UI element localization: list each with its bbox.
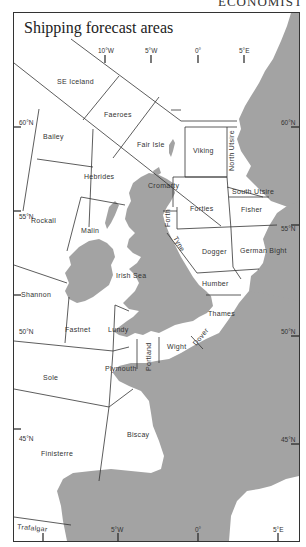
lat-label-left-60n: 60°N [19, 119, 34, 126]
lat-label-left-50n: 50°N [19, 328, 34, 335]
area-label-portland[interactable]: Portland [145, 343, 152, 371]
land-great-britain [113, 173, 213, 337]
lon-label-10w: 10°W [98, 47, 115, 54]
area-label-finisterre[interactable]: Finisterre [41, 450, 73, 457]
area-label-trafalgar[interactable]: Trafalgar [17, 523, 48, 534]
lon-label-0: 0° [195, 47, 202, 54]
area-label-thames[interactable]: Thames [208, 310, 235, 317]
area-label-south-utsire[interactable]: South Utsire [232, 188, 274, 195]
area-label-humber[interactable]: Humber [202, 280, 229, 287]
area-label-lundy[interactable]: Lundy [108, 326, 129, 334]
lat-label-right-60n: 60°N [281, 119, 296, 126]
area-label-north-utsire[interactable]: North Utsire [228, 130, 235, 171]
area-label-se-iceland[interactable]: SE Iceland [57, 78, 94, 85]
shipping-forecast-map: Shipping forecast areas [13, 12, 300, 542]
area-label-bailey[interactable]: Bailey [43, 133, 64, 141]
lat-label-right-45n: 45°N [281, 436, 296, 443]
area-label-dogger[interactable]: Dogger [202, 248, 227, 256]
land-continent [57, 291, 299, 541]
area-label-irish-sea[interactable]: Irish Sea [116, 272, 146, 279]
map-canvas: 10°W 5°W 0° 5°E 60°N 55°N 50°N 45°N 60°N… [14, 13, 299, 541]
land-ireland [65, 239, 115, 303]
area-label-forties[interactable]: Forties [190, 205, 214, 212]
area-label-fisher[interactable]: Fisher [241, 206, 263, 213]
area-label-forth[interactable]: Forth [164, 209, 171, 227]
lon-label-5e: 5°E [239, 47, 250, 54]
page-header-cut-text: ECONOMIST [218, 0, 303, 10]
land-masses [57, 13, 299, 541]
area-label-shannon[interactable]: Shannon [21, 291, 51, 298]
area-label-german-bight[interactable]: German Bight [240, 247, 287, 255]
area-label-faeroes[interactable]: Faeroes [104, 111, 132, 118]
lat-label-right-55n: 55°N [281, 225, 296, 232]
area-label-fastnet[interactable]: Fastnet [65, 326, 90, 333]
lat-label-left-45n: 45°N [19, 435, 34, 442]
land-outer-hebrides [105, 201, 119, 229]
area-label-fair-isle[interactable]: Fair Isle [137, 141, 165, 148]
area-label-cromarty[interactable]: Cromarty [148, 182, 179, 190]
area-label-rockall[interactable]: Rockall [31, 217, 56, 224]
area-label-viking[interactable]: Viking [193, 147, 214, 155]
lon-label-bottom-0: 0° [195, 526, 202, 533]
area-label-wight[interactable]: Wight [167, 343, 186, 351]
area-label-plymouth[interactable]: Plymouth [105, 365, 137, 373]
area-label-sole[interactable]: Sole [43, 374, 58, 381]
land-norway [237, 13, 299, 211]
map-title: Shipping forecast areas [24, 19, 173, 37]
area-label-hebrides[interactable]: Hebrides [84, 173, 115, 180]
lon-label-bottom-5e: 5°E [273, 526, 284, 533]
area-label-biscay[interactable]: Biscay [127, 431, 150, 439]
land-shetland [169, 139, 175, 157]
area-label-malin[interactable]: Malin [81, 227, 99, 234]
lat-label-right-50n: 50°N [281, 328, 296, 335]
lon-label-bottom-5w: 5°W [111, 526, 124, 533]
lon-label-5w: 5°W [145, 47, 158, 54]
